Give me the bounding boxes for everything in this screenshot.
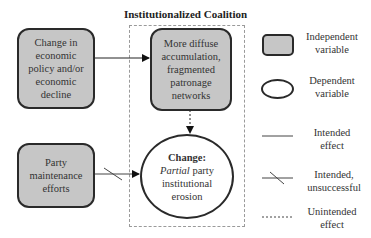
node-text: decline xyxy=(28,88,84,101)
node-economic-change: Change in economic policy and/or economi… xyxy=(17,28,95,109)
change-line1: Partial party xyxy=(160,164,214,177)
legend-text: variable xyxy=(296,87,368,100)
change-line3: erosion xyxy=(172,190,203,203)
node-text: economic xyxy=(28,75,84,88)
node-text: More diffuse xyxy=(161,37,220,50)
legend-text: effect xyxy=(296,218,368,231)
node-text: efforts xyxy=(29,182,82,195)
legend-text: Unintended xyxy=(296,205,368,218)
legend-independent-label: Independent variable xyxy=(296,30,368,56)
node-text: policy and/or xyxy=(28,62,84,75)
node-diffuse-accumulation: More diffuse accumulation, fragmented pa… xyxy=(150,28,232,111)
legend-text: Intended xyxy=(296,126,368,139)
legend-text: unsuccessful xyxy=(298,181,370,194)
change-italic: Partial xyxy=(160,165,190,176)
node-text: fragmented xyxy=(161,63,220,76)
node-text: accumulation, xyxy=(161,50,220,63)
legend-text: variable xyxy=(296,43,368,56)
legend-text: Intended, xyxy=(298,168,370,181)
node-text: economic xyxy=(28,49,84,62)
node-party-maintenance: Party maintenance efforts xyxy=(17,143,95,208)
legend-intended-label: Intended effect xyxy=(296,126,368,152)
legend-text: Independent xyxy=(296,30,368,43)
node-text: patronage xyxy=(161,76,220,89)
node-change: Change: Partial party institutional eros… xyxy=(140,134,234,219)
change-rest: party xyxy=(190,165,214,176)
change-line2: institutional xyxy=(162,177,212,190)
node-text: networks xyxy=(161,89,220,102)
legend-unintended-label: Unintended effect xyxy=(296,205,368,231)
legend-unsuccessful-label: Intended, unsuccessful xyxy=(298,168,370,194)
change-heading: Change: xyxy=(168,151,206,164)
legend-independent-icon xyxy=(262,34,294,56)
legend-dependent-icon xyxy=(261,79,294,99)
legend-dependent-label: Dependent variable xyxy=(296,74,368,100)
legend-text: effect xyxy=(296,139,368,152)
node-text: maintenance xyxy=(29,169,82,182)
node-text: Change in xyxy=(28,36,84,49)
node-text: Party xyxy=(29,156,82,169)
legend-text: Dependent xyxy=(296,74,368,87)
